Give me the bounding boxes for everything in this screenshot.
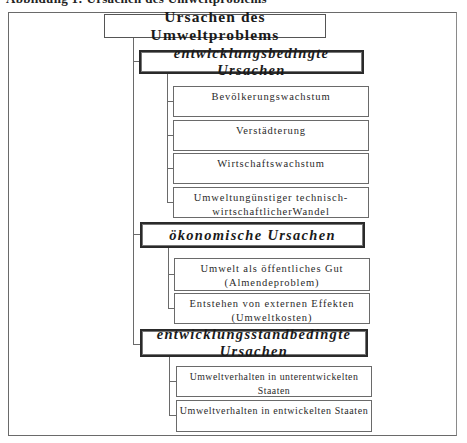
item-label-line2: wirtschaftlicherWandel — [212, 205, 330, 219]
item-label: Verstädterung — [236, 124, 306, 138]
item-label: Umweltverhalten in entwickelten Staaten — [180, 404, 369, 418]
item-node: Umwelt als öffentliches Gut (Almendeprob… — [174, 258, 370, 291]
category-node-developmental: entwicklungsbedingte Ursachen — [139, 50, 364, 74]
item-label: Wirtschaftswachstum — [217, 157, 325, 171]
item-label-line1: Umwelt als öffentliches Gut — [201, 262, 344, 276]
item-label-line2: (Umweltkosten) — [232, 311, 313, 325]
item-node: Bevölkerungswachstum — [173, 86, 369, 117]
figure-caption-cutoff: Abbildung 1: Ursachen des Umweltproblems — [6, 0, 267, 7]
category-label: entwicklungsstandbedingte Ursachen — [142, 326, 366, 360]
item-node: Verstädterung — [173, 120, 369, 151]
branch-connector-3 — [169, 357, 170, 416]
category-node-economic: ökonomische Ursachen — [140, 222, 365, 248]
item-label-line1: Entstehen von externen Effekten — [189, 297, 354, 311]
item-node: Umweltverhalten in entwickelten Staaten — [176, 400, 372, 432]
trunk-connector — [133, 38, 134, 345]
root-node: Ursachen des Umweltproblems — [104, 14, 326, 38]
item-label-line2: (Almendeproblem) — [225, 276, 320, 290]
item-node: Umweltverhalten in unterentwickelten Sta… — [176, 366, 372, 397]
item-node: Wirtschaftswachstum — [173, 153, 369, 184]
root-label: Ursachen des Umweltproblems — [105, 8, 325, 44]
category-label: ökonomische Ursachen — [169, 227, 336, 244]
category-label: entwicklungsbedingte Ursachen — [141, 45, 362, 79]
branch-connector-1 — [167, 74, 168, 202]
category-node-development-level: entwicklungsstandbedingte Ursachen — [140, 329, 368, 357]
branch-connector-2 — [168, 248, 169, 309]
item-node: Entstehen von externen Effekten (Umweltk… — [174, 293, 370, 324]
item-label: Bevölkerungswachstum — [212, 90, 331, 104]
item-label: Umweltverhalten in unterentwickelten Sta… — [177, 370, 371, 398]
item-label-line1: Umweltungünstiger technisch- — [194, 191, 348, 205]
item-node: Umweltungünstiger technisch- wirtschaftl… — [173, 187, 369, 218]
